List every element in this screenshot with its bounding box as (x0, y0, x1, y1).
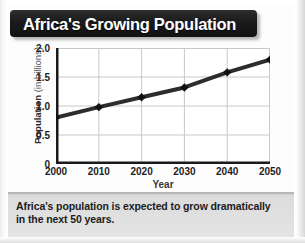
y-tick-label: 1.0 (24, 101, 50, 112)
x-tick-label: 2030 (173, 166, 195, 177)
page-edge-left (0, 0, 7, 243)
data-point-marker (137, 93, 145, 101)
page-edge-bottom (0, 237, 305, 243)
series-line (56, 60, 270, 118)
caption-divider (8, 192, 294, 194)
chart: Population (in billions) 00.51.01.52.0 2… (8, 40, 288, 192)
x-tick-label: 2020 (130, 166, 152, 177)
data-point-marker (95, 103, 103, 111)
axis-lines (57, 48, 270, 163)
page-title: Africa's Growing Population (23, 14, 236, 33)
x-tick-label: 2050 (259, 166, 281, 177)
x-tick-label: 2000 (45, 166, 67, 177)
x-tick-label: 2040 (216, 166, 238, 177)
y-tick-label: 0.5 (24, 130, 50, 141)
caption-band: Africa's population is expected to grow … (8, 192, 294, 237)
series-plot (56, 48, 270, 164)
figure-container: Africa's Growing Population Population (… (0, 0, 305, 243)
y-tick-label: 2.0 (24, 43, 50, 54)
plot-area (56, 48, 270, 164)
x-tick-label: 2010 (88, 166, 110, 177)
title-banner: Africa's Growing Population (10, 10, 257, 37)
x-axis-ticks: 200020102020203020402050 (56, 166, 270, 180)
y-tick-label: 1.5 (24, 72, 50, 83)
x-axis-label: Year (56, 179, 270, 190)
caption: Africa's population is expected to grow … (16, 200, 282, 226)
page-edge-right (296, 0, 305, 243)
